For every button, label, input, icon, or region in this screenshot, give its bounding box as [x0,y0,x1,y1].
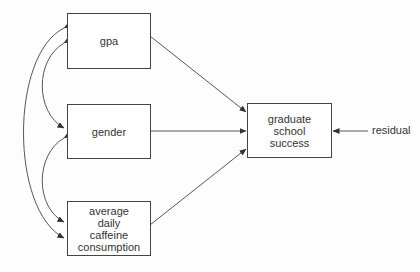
edge-caffeine-to-success [150,149,246,225]
node-graduate-school-success: graduate school success [247,103,332,158]
curve-gpa-caffeine [24,28,65,238]
node-gender-label: gender [92,126,126,138]
path-diagram: gpa gender average daily caffeine consum… [0,0,420,272]
node-success-label: graduate school success [268,113,311,149]
node-gender: gender [67,104,151,159]
residual-label: residual [372,124,411,136]
curve-gpa-gender [42,43,64,128]
node-gpa-label: gpa [100,35,118,47]
edge-gpa-to-success [150,36,246,112]
node-caffeine-label: average daily caffeine consumption [78,205,140,253]
curve-gender-caffeine [42,138,64,222]
node-gpa: gpa [67,13,151,69]
node-caffeine: average daily caffeine consumption [67,201,151,256]
diagram-connectors [0,0,420,272]
